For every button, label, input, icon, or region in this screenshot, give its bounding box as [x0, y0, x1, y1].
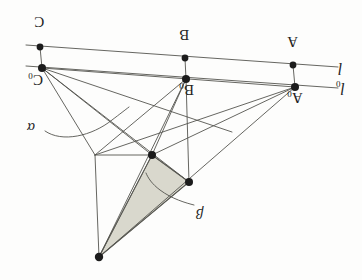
- label-point-b0: B0: [179, 82, 194, 97]
- label-point-c0: C0: [28, 72, 43, 87]
- label-region-alpha: α: [27, 120, 35, 135]
- label-line-l0-base: l: [341, 80, 345, 97]
- label-line-l: l: [338, 60, 342, 76]
- alpha-leader-curve: [45, 107, 129, 137]
- geometry-figure: C C0 B B0 A A0 l l0 α β: [0, 0, 362, 280]
- label-point-a0-sub: 0: [287, 89, 292, 99]
- node-P1: [148, 151, 156, 159]
- ray-b0-p3: [99, 79, 186, 257]
- label-point-a0-base: A: [292, 90, 303, 106]
- label-region-beta: β: [196, 206, 203, 221]
- node-A: [290, 62, 297, 69]
- node-C: [37, 44, 44, 51]
- label-line-l0: l0: [336, 80, 345, 96]
- ray-a0-p1: [152, 87, 295, 155]
- label-point-b: B: [179, 27, 189, 42]
- ray-c0-mid: [42, 68, 232, 132]
- label-line-l0-sub: 0: [336, 79, 341, 89]
- label-point-b0-base: B: [184, 82, 194, 98]
- label-point-c0-sub: 0: [28, 71, 33, 81]
- node-P2: [185, 178, 193, 186]
- ray-a0-p3: [99, 87, 295, 257]
- node-C0: [38, 64, 46, 72]
- ray-c0-p4: [42, 68, 95, 155]
- label-point-b0-sub: 0: [179, 81, 184, 91]
- ray-c0-a0: [42, 68, 295, 87]
- node-B: [182, 55, 189, 62]
- label-point-c0-base: C: [33, 72, 43, 88]
- edge-p4-p3: [95, 155, 99, 257]
- label-point-a: A: [287, 34, 298, 49]
- label-point-c: C: [34, 14, 44, 29]
- ray-c0-p2: [42, 68, 189, 182]
- ray-a0-p4: [95, 87, 295, 155]
- node-P3: [95, 253, 103, 261]
- label-point-a0: A0: [287, 90, 303, 105]
